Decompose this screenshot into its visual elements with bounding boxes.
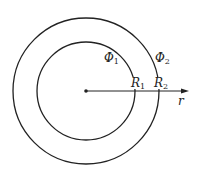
r2-label: R2 <box>154 77 168 91</box>
r-axis-label: r <box>178 95 184 107</box>
phi1-label: Φ1 <box>104 52 119 66</box>
diagram-canvas: Φ1 Φ2 R1 R2 r <box>0 0 201 177</box>
concentric-circles-figure <box>0 0 201 177</box>
r1-label: R1 <box>131 77 145 91</box>
phi2-label: Φ2 <box>155 52 170 66</box>
r-axis-arrowhead-icon <box>181 89 189 94</box>
center-point <box>84 89 88 93</box>
